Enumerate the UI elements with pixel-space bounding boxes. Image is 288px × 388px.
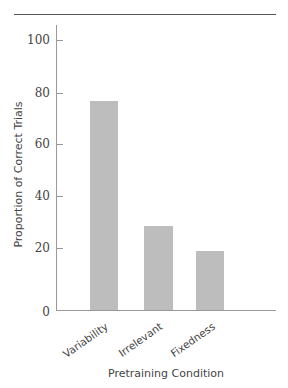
top-rule <box>14 14 276 15</box>
y-tick-40 <box>56 196 63 197</box>
x-axis-label: Pretraining Condition <box>56 367 276 380</box>
bar-fixedness <box>196 251 224 310</box>
category-label-fixedness: Fixedness <box>168 320 217 359</box>
y-axis-label: Proportion of Correct Trials <box>12 95 25 255</box>
y-tick-80 <box>56 93 63 94</box>
y-tick-20 <box>56 248 63 249</box>
bar-irrelevant <box>144 226 173 310</box>
y-tick-60 <box>56 144 63 145</box>
y-tick-100 <box>56 40 63 41</box>
y-tick-label-20: 20 <box>20 242 50 254</box>
y-axis <box>56 25 57 311</box>
y-tick-label-40: 40 <box>20 190 50 202</box>
category-label-irrelevant: Irrelevant <box>117 320 165 359</box>
bar-variability <box>90 101 118 310</box>
y-tick-label-100: 100 <box>20 34 50 46</box>
y-tick-label-80: 80 <box>20 87 50 99</box>
category-label-variability: Variability <box>60 320 110 360</box>
y-tick-label-0: 0 <box>20 306 50 318</box>
x-axis <box>56 310 276 311</box>
y-tick-label-60: 60 <box>20 138 50 150</box>
